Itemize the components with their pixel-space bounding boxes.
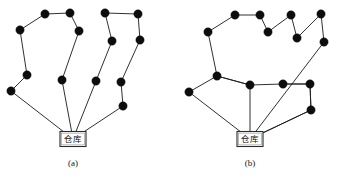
vrp-diagram-canvas: 仓库仓库 (a)(b) [0,0,338,177]
customer-node [7,87,15,95]
customer-node [58,76,66,84]
route-edge [96,41,112,81]
captions-layer: (a)(b) [68,158,255,168]
customer-node [246,81,254,89]
customer-node [287,11,295,19]
customer-node [108,37,116,45]
route-edge [105,13,138,14]
customer-node [66,9,74,17]
customer-node [317,10,325,18]
customer-node [119,102,127,110]
customer-node [293,34,301,42]
customer-node [136,36,144,44]
customer-node [256,11,264,19]
route-edge [217,76,250,85]
route-edge [121,40,140,82]
customer-node [279,80,287,88]
depots-layer: 仓库仓库 [60,132,263,147]
customer-node [320,38,328,46]
depot-label: 仓库 [241,134,259,144]
route-edge [250,84,283,85]
customer-node [134,10,142,18]
customer-node [101,9,109,17]
customer-node [264,28,272,36]
route-edge [208,32,217,76]
depot-marker: 仓库 [237,132,263,147]
route-edge [297,14,321,38]
customer-node [16,26,24,34]
route-edge [73,81,96,139]
route-edge [250,42,324,139]
panel-caption: (b) [245,158,256,168]
customer-node [307,106,315,114]
depot-marker: 仓库 [60,132,86,147]
customer-node [213,72,221,80]
edges-layer [11,13,324,139]
customer-node [92,77,100,85]
customer-node [75,27,83,35]
route-edge [20,14,45,30]
customer-node [185,88,193,96]
customer-node [306,80,314,88]
customer-node [23,71,31,79]
customer-node [231,11,239,19]
customer-node [204,28,212,36]
route-edge [62,31,79,80]
nodes-layer [7,9,328,114]
customer-node [41,10,49,18]
depot-label: 仓库 [64,134,82,144]
vrp-figure: 仓库仓库 (a)(b) [0,0,338,177]
panel-caption: (a) [68,158,78,168]
route-edge [189,76,217,92]
route-edge [20,30,27,75]
customer-node [117,78,125,86]
route-edge [62,80,73,139]
route-edge [208,15,235,32]
